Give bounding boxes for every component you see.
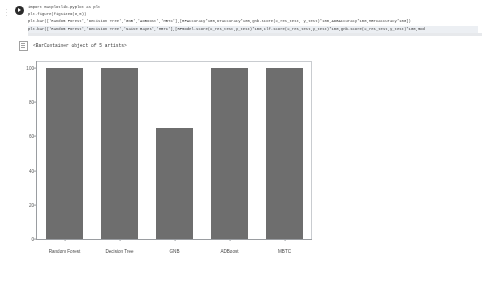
y-tick-label: 0	[12, 237, 34, 242]
x-tick-label: ADBoost	[202, 249, 257, 254]
cell-output: <BarContainer object of 5 artists>	[0, 41, 482, 51]
x-tick-mark	[229, 239, 230, 241]
code-line-selected[interactable]: plt.bar(['Random Forest','Decision Tree'…	[28, 26, 478, 33]
code-editor[interactable]: import matplotlib.pyplot as plt plt.figu…	[28, 4, 482, 33]
bar	[211, 68, 247, 240]
y-tick-label: 40	[12, 168, 34, 173]
bar-slot	[147, 61, 202, 240]
y-tick-mark	[33, 102, 36, 103]
bar-slot	[257, 61, 312, 240]
bar	[46, 68, 82, 240]
x-tick-label: Decision Tree	[92, 249, 147, 254]
x-tick-mark	[64, 239, 65, 241]
cell-divider	[28, 33, 482, 36]
output-icon	[19, 41, 28, 51]
x-tick-label: Random Forest	[37, 249, 92, 254]
output-gutter	[0, 41, 33, 51]
x-tick-label: MBTC	[257, 249, 312, 254]
x-tick-mark	[284, 239, 285, 241]
x-tick-label: GNB	[147, 249, 202, 254]
bar-series	[37, 61, 312, 240]
code-line[interactable]: plt.figure(figsize=(8,5))	[28, 11, 478, 18]
y-tick-mark	[33, 136, 36, 137]
code-line[interactable]: plt.bar(['Random Forest','Decision Tree'…	[28, 18, 478, 25]
cell-gutter	[0, 4, 28, 15]
y-tick-mark	[33, 239, 36, 240]
run-cell-icon[interactable]	[15, 6, 24, 15]
y-tick-label: 100	[12, 65, 34, 70]
drag-handle-icon[interactable]	[6, 7, 10, 19]
bar-slot	[92, 61, 147, 240]
bar-slot	[202, 61, 257, 240]
bar	[266, 68, 302, 240]
y-tick-label: 20	[12, 202, 34, 207]
bar	[101, 68, 137, 240]
code-line[interactable]: import matplotlib.pyplot as plt	[28, 4, 478, 11]
y-tick-mark	[33, 67, 36, 68]
x-tick-mark	[174, 239, 175, 241]
y-tick-label: 80	[12, 100, 34, 105]
notebook-page: import matplotlib.pyplot as plt plt.figu…	[0, 0, 482, 302]
y-tick-label: 60	[12, 134, 34, 139]
matplotlib-figure: 020406080100 Random ForestDecision TreeG…	[12, 57, 312, 262]
y-tick-mark	[33, 205, 36, 206]
bar	[156, 128, 192, 240]
code-cell[interactable]: import matplotlib.pyplot as plt plt.figu…	[0, 0, 482, 33]
x-axis-labels: Random ForestDecision TreeGNBADBoostMBTC	[37, 249, 312, 254]
bar-slot	[37, 61, 92, 240]
y-tick-mark	[33, 170, 36, 171]
output-text: <BarContainer object of 5 artists>	[33, 43, 127, 48]
x-tick-mark	[119, 239, 120, 241]
